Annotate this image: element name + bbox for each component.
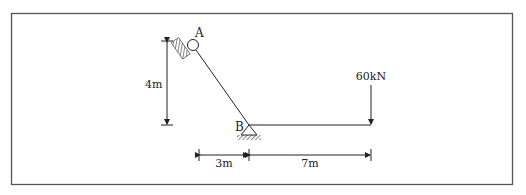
dimension-label-7m: 7m [301,157,319,170]
vertical-dimension [161,41,173,125]
point-label-b: B [235,120,244,134]
dimension-label-3m: 3m [215,157,233,170]
member-ab [196,50,249,125]
roller-support-a [171,38,198,60]
roller-icon [188,40,199,51]
diagram-frame [12,14,513,185]
ground-hatch-icon [237,135,261,140]
point-label-a: A [194,26,204,40]
structural-diagram: A B 60kN 4m 3m 7m [0,0,526,195]
load-label: 60kN [356,70,387,83]
dimension-label-4m: 4m [145,78,163,91]
hatched-wall-icon [171,38,190,60]
